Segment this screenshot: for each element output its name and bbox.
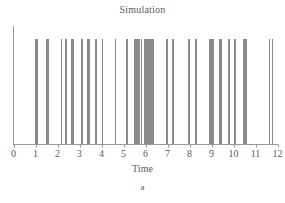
x-tick-label: 10: [229, 148, 239, 160]
x-tick-label: 2: [55, 148, 60, 160]
x-tick-label: 8: [187, 148, 192, 160]
x-tick-label: 5: [121, 148, 126, 160]
panel-label: a: [0, 182, 285, 192]
x-tick-label: 3: [77, 148, 82, 160]
x-tick-label: 1: [33, 148, 38, 160]
x-tick-label: 11: [251, 148, 261, 160]
x-tick-label: 12: [273, 148, 283, 160]
x-tick-label: 9: [209, 148, 214, 160]
x-tick-label: 7: [165, 148, 170, 160]
x-tick-label: 4: [99, 148, 104, 160]
x-tick-label: 6: [143, 148, 148, 160]
x-axis-title: Time: [0, 163, 285, 174]
spike-series: [36, 39, 273, 145]
x-axis-tick-labels: 0123456789101112: [0, 148, 285, 162]
x-tick-label: 0: [11, 148, 16, 160]
simulation-figure: Simulation 0123456789101112 Time a: [0, 0, 285, 203]
